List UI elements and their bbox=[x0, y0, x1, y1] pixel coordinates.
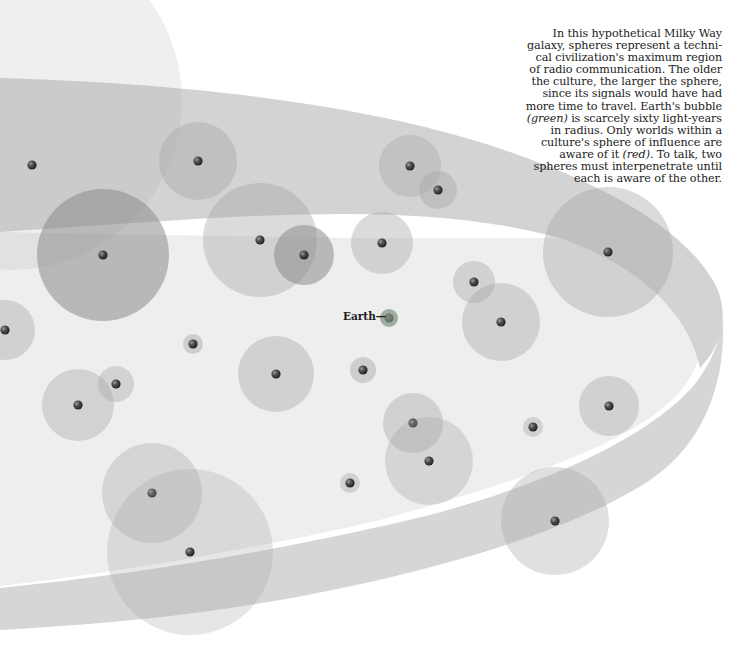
caption-line: each is aware of the other. bbox=[482, 173, 722, 185]
star-system-dot bbox=[496, 317, 505, 326]
caption-text: the culture, the larger the sphere, bbox=[531, 75, 722, 88]
civilization-sphere bbox=[351, 212, 413, 274]
civilization-sphere bbox=[543, 187, 673, 317]
caption-text: cal civilization's maximum region bbox=[536, 51, 722, 64]
star-system-dot bbox=[603, 247, 612, 256]
civilization-sphere bbox=[501, 467, 609, 575]
star-system-dot bbox=[193, 156, 202, 165]
star-system-dot bbox=[271, 369, 280, 378]
caption-text: more time to travel. Earth's bubble bbox=[526, 100, 722, 113]
earth-label: Earth— bbox=[343, 310, 386, 322]
star-system-dot bbox=[528, 422, 537, 431]
star-system-dot bbox=[469, 277, 478, 286]
caption-text: . To talk, two bbox=[650, 148, 722, 161]
civilization-sphere bbox=[419, 171, 457, 209]
star-system-dot bbox=[358, 365, 367, 374]
star-system-dot bbox=[73, 400, 82, 409]
caption-text: galaxy, spheres represent a techni- bbox=[527, 39, 722, 52]
caption-text: in radius. Only worlds within a bbox=[551, 124, 722, 137]
civilization-sphere bbox=[42, 369, 114, 441]
star-system-dot bbox=[550, 516, 559, 525]
civilization-sphere bbox=[159, 122, 237, 200]
star-system-dot bbox=[111, 379, 120, 388]
caption-text: In this hypothetical Milky Way bbox=[553, 27, 722, 40]
civilization-sphere bbox=[385, 417, 473, 505]
civilization-sphere bbox=[462, 283, 540, 361]
caption-text: culture's sphere of influence are bbox=[541, 136, 722, 149]
star-system-dot bbox=[405, 161, 414, 170]
civilization-sphere bbox=[579, 376, 639, 436]
caption-text: of radio communication. The older bbox=[529, 63, 722, 76]
star-system-dot bbox=[424, 456, 433, 465]
earth-connector: — bbox=[376, 310, 387, 322]
star-system-dot bbox=[433, 185, 442, 194]
civilization-sphere bbox=[183, 334, 203, 354]
caption-text: aware of it bbox=[559, 148, 622, 161]
civilization-sphere bbox=[107, 469, 273, 635]
star-system-dot bbox=[27, 160, 36, 169]
caption-text: is scarcely sixty light-years bbox=[568, 112, 722, 125]
star-system-dot bbox=[255, 235, 264, 244]
star-system-dot bbox=[0, 325, 9, 334]
caption-text: since its signals would have had bbox=[542, 87, 722, 100]
earth-label-text: Earth bbox=[343, 310, 376, 322]
civilization-sphere bbox=[350, 357, 376, 383]
civilization-sphere bbox=[37, 189, 169, 321]
star-system-dot bbox=[345, 478, 354, 487]
star-system-dot bbox=[604, 401, 613, 410]
civilization-sphere bbox=[274, 225, 334, 285]
caption-emphasis: (green) bbox=[527, 112, 568, 125]
caption-text: each is aware of the other. bbox=[574, 172, 722, 185]
star-system-dot bbox=[98, 250, 107, 259]
star-system-dot bbox=[188, 339, 197, 348]
star-system-dot bbox=[299, 250, 308, 259]
civilization-sphere bbox=[238, 336, 314, 412]
civilization-sphere bbox=[340, 473, 360, 493]
civilization-sphere bbox=[523, 417, 543, 437]
caption-emphasis: (red) bbox=[623, 148, 650, 161]
civilization-sphere bbox=[27, 160, 36, 169]
star-system-dot bbox=[185, 547, 194, 556]
star-system-dot bbox=[377, 238, 386, 247]
caption-text: spheres must interpenetrate until bbox=[534, 160, 722, 173]
figure-caption: In this hypothetical Milky Waygalaxy, sp… bbox=[482, 28, 722, 185]
